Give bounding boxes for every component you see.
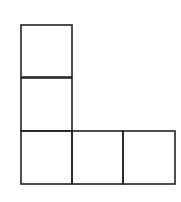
square-bottom-right	[123, 131, 175, 184]
l-shape-diagram	[0, 0, 181, 202]
square-bottom-left	[21, 131, 72, 184]
square-top	[21, 25, 72, 77]
square-middle	[21, 78, 72, 131]
square-bottom-center	[72, 131, 123, 184]
